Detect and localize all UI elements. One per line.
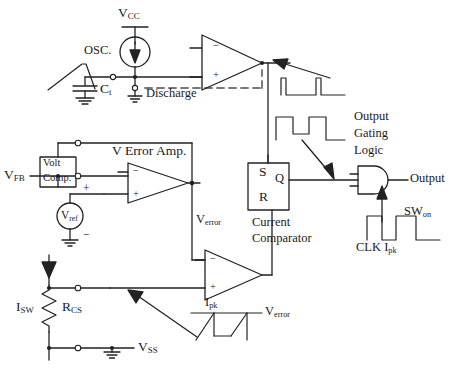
vref-minus-label: − xyxy=(83,228,90,240)
error-amp-minus-label: − xyxy=(133,165,139,176)
clock-pulse-waveform xyxy=(281,78,345,95)
output-label: Output xyxy=(410,172,445,185)
latch-r-label: R xyxy=(259,190,268,204)
current-sense-node-line xyxy=(47,285,110,291)
ipk-verror-ramp-waveform xyxy=(191,313,262,340)
error-amp-label: V Error Amp. xyxy=(112,144,186,158)
ct-label: Ct xyxy=(100,82,112,97)
clk-ipk-label: CLK Ipk xyxy=(356,241,397,255)
isw-current-arrow xyxy=(42,255,56,285)
output-gating-line1-label: Output xyxy=(354,110,389,123)
ipk-ramp-label: Ipk xyxy=(205,296,217,310)
error-amplifier xyxy=(104,163,200,203)
isw-label: ISW xyxy=(16,300,34,315)
osc-comparator-minus-label: − xyxy=(213,40,219,51)
output-gating-line2-label: Gating xyxy=(354,127,388,140)
oscillator-comparator xyxy=(190,35,290,90)
output-gating-annotation-arrow xyxy=(302,140,334,179)
vfb-label: VFB xyxy=(4,168,25,183)
error-amp-plus-label: + xyxy=(133,188,139,199)
latch-s-label: S xyxy=(259,165,267,179)
and-gate xyxy=(350,166,408,194)
current-comparator-minus-label: − xyxy=(210,253,216,264)
discharge-label: Discharge xyxy=(146,87,196,100)
volt-comp-line1-label: Volt xyxy=(43,157,60,168)
current-comparator xyxy=(110,210,272,300)
clock-annotation-arrow xyxy=(273,59,330,78)
output-gating-line3-label: Logic xyxy=(354,144,383,157)
circuit-diagram-canvas: VCC OSC. Ct Discharge − + Volt Comp. VFB… xyxy=(0,0,457,370)
osc-label: OSC. xyxy=(84,44,111,57)
rcs-label: RCS xyxy=(62,300,82,315)
vss-rail xyxy=(47,332,134,360)
volt-comp-line2-label: Comp. xyxy=(43,172,71,183)
gating-logic-waveform xyxy=(276,117,345,140)
current-sense-annotation-arrow xyxy=(128,290,197,337)
vcc-label: VCC xyxy=(118,6,140,21)
vcc-supply-symbol xyxy=(122,27,148,37)
verror-ramp-label: Verror xyxy=(265,305,290,319)
vref-plus-label: + xyxy=(83,182,90,194)
osc-comparator-plus-label: + xyxy=(213,69,219,80)
current-comparator-line1-label: Current xyxy=(252,216,290,229)
oscillator-current-source xyxy=(120,37,150,77)
verror-label: Verror xyxy=(196,213,221,227)
sw-on-label: SWon xyxy=(404,205,431,219)
current-comparator-line2-label: Comparator xyxy=(252,232,312,245)
vss-label: VSS xyxy=(138,340,158,355)
clk-ipk-waveform xyxy=(367,216,440,240)
rcs-sense-resistor xyxy=(42,285,56,332)
current-comparator-plus-label: + xyxy=(210,281,216,292)
latch-q-label: Q xyxy=(275,172,284,185)
vref-label: Vref xyxy=(61,209,78,223)
discharge-node xyxy=(128,77,142,102)
